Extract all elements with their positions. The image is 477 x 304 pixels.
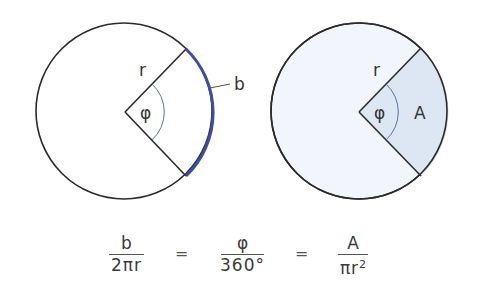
fraction-area-denominator-base: πr — [340, 258, 359, 278]
fraction-area-numerator: A — [347, 233, 359, 254]
right-radius-label: r — [373, 60, 380, 80]
fraction-angle: φ 360° — [221, 233, 264, 277]
left-radius-label: r — [139, 60, 146, 80]
arc-b-leader-line — [210, 84, 230, 88]
fraction-arc-denominator: 2πr — [111, 255, 142, 277]
fraction-angle-denominator: 360° — [220, 255, 265, 277]
fraction-area: A πr2 — [338, 233, 368, 277]
right-figure-sector-area: r φ A — [271, 23, 449, 199]
fraction-area-denominator: πr2 — [340, 255, 366, 277]
fraction-arc: b 2πr — [109, 233, 144, 277]
right-angle-label: φ — [374, 103, 385, 123]
arc-b-label: b — [234, 74, 245, 94]
fraction-arc-numerator: b — [121, 233, 132, 254]
fraction-angle-numerator: φ — [237, 233, 248, 254]
equals-sign-2: = — [295, 244, 308, 263]
equals-sign-1: = — [175, 244, 188, 263]
left-figure-arc-length: r φ b — [36, 23, 245, 199]
fraction-area-denominator-exponent: 2 — [359, 258, 366, 271]
left-angle-label: φ — [140, 103, 151, 123]
sector-a-label: A — [414, 103, 426, 123]
